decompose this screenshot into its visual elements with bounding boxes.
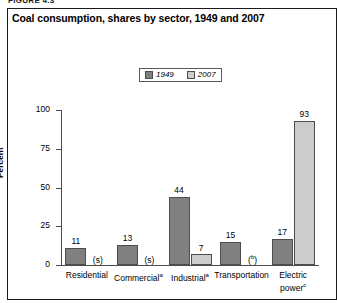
x-axis-labels: ResidentialCommercialaIndustrialaTranspo… (61, 270, 319, 300)
y-axis-tick-label: 100 (28, 105, 50, 114)
bar-value-label: 15 (216, 231, 245, 240)
bar-value-label: 7 (187, 244, 216, 253)
bar-value-label: 13 (113, 234, 142, 243)
bar-value-label: (s) (135, 256, 164, 265)
x-axis-line (61, 265, 319, 266)
bar-value-label: (s) (83, 256, 112, 265)
bar (294, 121, 315, 265)
y-axis-tick-label: 0 (28, 260, 50, 269)
bar (272, 239, 293, 265)
y-axis-tick-label: 25 (28, 221, 50, 230)
bar-value-label: 11 (61, 237, 90, 246)
bar (169, 197, 190, 265)
y-axis-title: Percent (0, 147, 5, 178)
bar-value-label: 17 (268, 228, 297, 237)
x-axis-category-label: Electricpowerc (263, 270, 323, 293)
bar-value-label: 93 (290, 110, 319, 119)
bar-value-label: 44 (165, 186, 194, 195)
bar-value-label: (b) (238, 254, 267, 264)
bars-layer: 11(s)13(s)44715(b)1793 (61, 110, 319, 265)
y-axis-tick-label: 50 (28, 183, 50, 192)
y-axis-tick-label: 75 (28, 144, 50, 153)
y-axis-tick (56, 265, 61, 266)
bar (191, 254, 212, 265)
